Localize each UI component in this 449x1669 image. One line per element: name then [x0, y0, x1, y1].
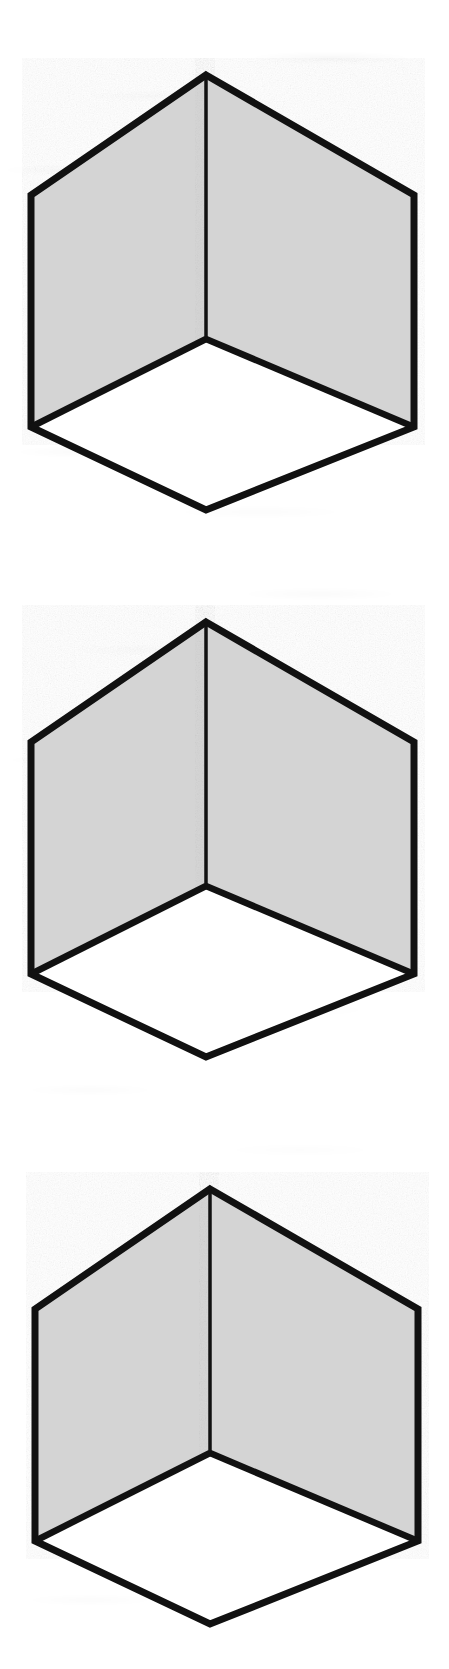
figure-stack: Figure 1: [0, 0, 449, 1669]
open-cube-svg-1: [0, 58, 449, 518]
open-cube-figure-2: Figure 2: [0, 605, 449, 1065]
open-cube-svg-3: [4, 1172, 449, 1632]
page-root: Figure 1: [0, 0, 449, 1669]
open-cube-figure-3: Figure 3: [4, 1172, 449, 1632]
open-cube-svg-2: [0, 605, 449, 1065]
open-cube-figure-1: Figure 1: [0, 58, 449, 518]
